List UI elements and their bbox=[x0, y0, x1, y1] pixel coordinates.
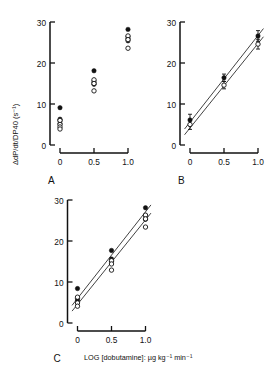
data-point-filled bbox=[58, 105, 62, 109]
panel-c-yaxis: 30 20 10 0 bbox=[54, 196, 72, 329]
y-tick-0: 0 bbox=[59, 319, 64, 329]
data-point-open bbox=[92, 89, 96, 93]
x-tick-05: 0.5 bbox=[106, 335, 118, 345]
panel-a-plot: 30 20 10 0 0 0.5 1.0 A bbox=[18, 14, 138, 189]
x-tick-05: 0.5 bbox=[88, 157, 100, 167]
panel-a-xaxis: 0 0.5 1.0 bbox=[58, 148, 134, 167]
x-tick-10: 1.0 bbox=[122, 157, 134, 167]
data-point-filled bbox=[143, 206, 147, 210]
panel-b-yaxis: 30 20 10 0 bbox=[167, 18, 185, 151]
data-point-open bbox=[126, 37, 130, 41]
y-tick-10: 10 bbox=[37, 100, 47, 110]
y-tick-30: 30 bbox=[54, 196, 64, 206]
data-point-open bbox=[92, 81, 96, 85]
panel-c: 30 20 10 0 0 0.5 1.0 C bbox=[28, 192, 163, 367]
panel-c-data bbox=[72, 205, 151, 311]
panel-a: 30 20 10 0 0 0.5 1.0 A bbox=[18, 14, 138, 189]
panel-b-xaxis: 0 0.5 1.0 bbox=[188, 148, 264, 167]
panel-b-letter: B bbox=[178, 175, 185, 186]
y-tick-0: 0 bbox=[41, 141, 46, 151]
data-point-filled bbox=[256, 34, 260, 38]
data-point-open bbox=[143, 217, 147, 221]
data-point-open bbox=[75, 304, 79, 308]
data-point-filled bbox=[222, 76, 226, 80]
data-point-open bbox=[109, 262, 113, 266]
data-point-open bbox=[188, 122, 192, 126]
x-tick-0: 0 bbox=[75, 335, 80, 345]
filled-fit bbox=[72, 205, 151, 305]
data-point-open bbox=[256, 42, 260, 46]
panel-b: 30 20 10 0 0 0.5 1.0 B bbox=[148, 14, 268, 189]
data-point-open bbox=[143, 225, 147, 229]
x-tick-10: 1.0 bbox=[252, 157, 264, 167]
x-tick-0: 0 bbox=[188, 157, 193, 167]
data-point-open bbox=[126, 46, 130, 50]
x-tick-10: 1.0 bbox=[140, 335, 152, 345]
panel-a-yaxis: 30 20 10 0 bbox=[37, 18, 55, 151]
data-point-open bbox=[109, 268, 113, 272]
figure-container: ΔdP/dt/DP40 (s⁻¹) 30 20 10 0 0 0.5 bbox=[0, 0, 272, 373]
data-point-open bbox=[58, 127, 62, 131]
data-point-filled bbox=[92, 69, 96, 73]
y-tick-30: 30 bbox=[167, 18, 177, 28]
panel-b-data bbox=[185, 29, 264, 135]
data-point-open bbox=[222, 83, 226, 87]
y-tick-10: 10 bbox=[167, 100, 177, 110]
x-tick-0: 0 bbox=[58, 157, 63, 167]
data-point-filled bbox=[75, 286, 79, 290]
panel-c-letter: C bbox=[54, 353, 61, 364]
data-point-filled bbox=[126, 27, 130, 31]
y-tick-30: 30 bbox=[37, 18, 47, 28]
y-tick-20: 20 bbox=[54, 237, 64, 247]
x-tick-05: 0.5 bbox=[218, 157, 230, 167]
y-tick-0: 0 bbox=[171, 141, 176, 151]
y-tick-20: 20 bbox=[37, 59, 47, 69]
panel-a-data bbox=[58, 27, 130, 131]
y-tick-10: 10 bbox=[54, 278, 64, 288]
panel-c-plot: 30 20 10 0 0 0.5 1.0 C bbox=[28, 192, 163, 367]
panel-a-letter: A bbox=[48, 175, 55, 186]
data-point-filled bbox=[109, 248, 113, 252]
panel-b-plot: 30 20 10 0 0 0.5 1.0 B bbox=[148, 14, 268, 189]
panel-c-xaxis: 0 0.5 1.0 bbox=[75, 326, 151, 345]
data-point-open bbox=[75, 295, 79, 299]
y-tick-20: 20 bbox=[167, 59, 177, 69]
x-axis-title: LOG [dobutamine]: µg kg⁻¹ min⁻¹ bbox=[84, 353, 192, 362]
